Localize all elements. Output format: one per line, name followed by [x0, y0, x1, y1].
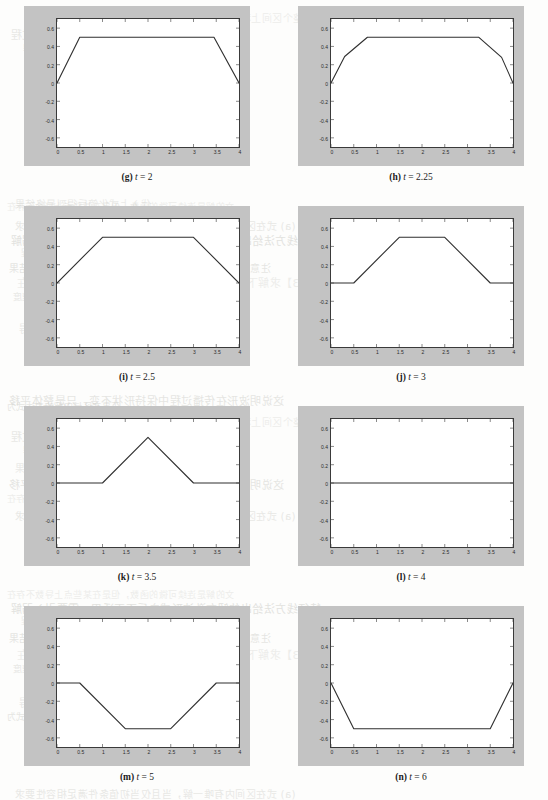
- caption-variable: t: [409, 772, 412, 782]
- x-tick-label: 2.5: [442, 749, 449, 755]
- data-curve: [331, 237, 513, 283]
- plot-canvas: [331, 19, 513, 147]
- panel-caption-i: (i) t = 2.5: [0, 372, 274, 382]
- data-curve: [331, 683, 513, 729]
- x-tick-label: 3.5: [214, 749, 221, 755]
- y-tick-label: -0.6: [45, 536, 54, 542]
- plot-canvas: [331, 619, 513, 747]
- plot-area-k: 0.60.40.20-0.2-0.4-0.600.511.522.533.54: [56, 418, 240, 548]
- x-tick-label: 0.5: [351, 749, 358, 755]
- y-tick-label: 0.6: [321, 226, 328, 232]
- y-tick-label: 0: [325, 81, 328, 87]
- x-tick-label: 2.5: [168, 349, 175, 355]
- caption-equals: =: [414, 772, 419, 782]
- x-tick-label: 0: [57, 549, 60, 555]
- tick-marks: [331, 219, 513, 347]
- plot-area-i: 0.60.40.20-0.2-0.4-0.600.511.522.533.54: [56, 218, 240, 348]
- y-tick-label: 0.4: [47, 644, 54, 650]
- y-tick-label: -0.2: [319, 99, 328, 105]
- x-tick-label: 3.5: [488, 349, 495, 355]
- y-tick-label: -0.4: [319, 118, 328, 124]
- x-tick-label: 0: [57, 349, 60, 355]
- panel-frame: 0.60.40.20-0.2-0.4-0.600.511.522.533.54: [24, 406, 250, 566]
- caption-variable: t: [408, 572, 411, 582]
- x-tick-label: 1.5: [397, 749, 404, 755]
- x-tick-label: 2: [422, 549, 425, 555]
- tick-marks: [57, 619, 239, 747]
- x-tick-label: 1.5: [397, 349, 404, 355]
- x-tick-label: 3.5: [214, 149, 221, 155]
- caption-index: (m): [120, 772, 134, 782]
- y-tick-label: -0.6: [319, 736, 328, 742]
- x-tick-label: 0: [331, 349, 334, 355]
- panel-frame: 0.60.40.20-0.2-0.4-0.600.511.522.533.54: [24, 206, 250, 366]
- y-tick-label: 0: [51, 81, 54, 87]
- caption-equals: =: [413, 372, 418, 382]
- x-tick-label: 1: [376, 749, 379, 755]
- y-tick-label: 0.2: [47, 463, 54, 469]
- y-tick-label: 0.4: [47, 44, 54, 50]
- y-tick-label: -0.6: [45, 736, 54, 742]
- y-tick-label: 0.4: [321, 444, 328, 450]
- y-tick-label: 0.2: [47, 263, 54, 269]
- y-tick-label: 0.2: [47, 663, 54, 669]
- caption-value: 2.5: [143, 372, 155, 382]
- panel-frame: 0.60.40.20-0.2-0.4-0.600.511.522.533.54: [298, 606, 524, 766]
- panel-frame: 0.60.40.20-0.2-0.4-0.600.511.522.533.54: [298, 406, 524, 566]
- x-tick-label: 2: [422, 149, 425, 155]
- x-tick-label: 0.5: [351, 149, 358, 155]
- caption-variable: t: [408, 372, 411, 382]
- x-tick-label: 4: [239, 749, 242, 755]
- x-tick-label: 1.5: [397, 549, 404, 555]
- tick-marks: [331, 19, 513, 147]
- x-tick-label: 2.5: [442, 349, 449, 355]
- x-tick-label: 2: [148, 749, 151, 755]
- y-tick-label: -0.6: [319, 536, 328, 542]
- y-tick-label: -0.4: [319, 518, 328, 524]
- y-tick-label: 0.6: [321, 26, 328, 32]
- x-tick-label: 4: [239, 349, 242, 355]
- y-tick-label: 0: [51, 281, 54, 287]
- y-tick-label: 0.2: [321, 263, 328, 269]
- panel-caption-k: (k) t = 3.5: [0, 572, 274, 582]
- caption-equals: =: [408, 172, 413, 182]
- panel-caption-l: (l) t = 4: [274, 572, 548, 582]
- caption-index: (n): [395, 772, 407, 782]
- y-tick-label: 0.6: [47, 226, 54, 232]
- x-tick-label: 1.5: [123, 749, 130, 755]
- y-tick-label: -0.4: [319, 318, 328, 324]
- y-tick-label: -0.2: [45, 699, 54, 705]
- y-tick-label: 0: [51, 481, 54, 487]
- x-tick-label: 4: [513, 149, 516, 155]
- panel-frame: 0.60.40.20-0.2-0.4-0.600.511.522.533.54: [298, 206, 524, 366]
- x-tick-label: 1: [376, 549, 379, 555]
- x-tick-label: 4: [513, 749, 516, 755]
- x-tick-label: 1: [102, 749, 105, 755]
- figure-panel-i: 0.60.40.20-0.2-0.4-0.600.511.522.533.54(…: [0, 200, 274, 400]
- plot-canvas: [331, 419, 513, 547]
- caption-equals: =: [142, 772, 147, 782]
- y-tick-label: 0: [325, 481, 328, 487]
- y-tick-label: 0: [51, 681, 54, 687]
- y-tick-label: -0.2: [45, 99, 54, 105]
- y-tick-label: 0.2: [321, 63, 328, 69]
- x-tick-label: 0: [57, 749, 60, 755]
- plot-area-h: 0.60.40.20-0.2-0.4-0.600.511.522.533.54: [330, 18, 514, 148]
- y-tick-label: 0.6: [47, 626, 54, 632]
- caption-equals: =: [135, 372, 140, 382]
- y-tick-label: -0.6: [319, 336, 328, 342]
- y-tick-label: 0.4: [47, 244, 54, 250]
- caption-value: 3.5: [144, 572, 156, 582]
- x-tick-label: 2: [422, 349, 425, 355]
- data-curve: [57, 437, 239, 483]
- caption-index: (g): [122, 172, 133, 182]
- x-tick-label: 0.5: [351, 549, 358, 555]
- y-tick-label: 0: [325, 681, 328, 687]
- x-tick-label: 1: [376, 149, 379, 155]
- panel-caption-h: (h) t = 2.25: [274, 172, 548, 182]
- plot-canvas: [57, 619, 239, 747]
- y-tick-label: -0.2: [45, 499, 54, 505]
- x-tick-label: 3.5: [214, 349, 221, 355]
- x-tick-label: 2.5: [168, 549, 175, 555]
- caption-value: 5: [149, 772, 154, 782]
